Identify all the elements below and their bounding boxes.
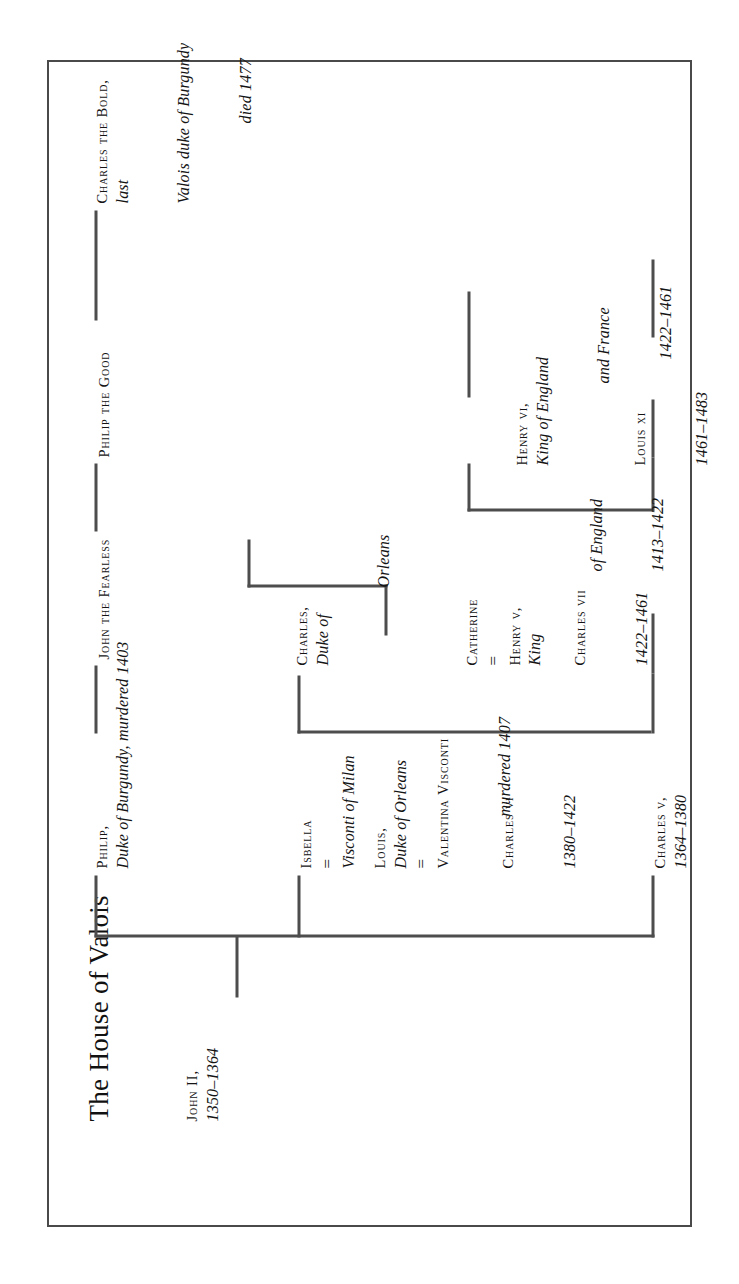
node-charles-the-bold-detail2: Valois duke of Burgundy <box>174 42 191 203</box>
connector-gen2-spine <box>94 934 654 937</box>
node-john-ii-name: John II, <box>183 1070 199 1121</box>
node-john-ii-dates: 1350–1364 <box>203 1047 220 1121</box>
connector-to-isbella <box>297 875 300 937</box>
connector-to-charles-orleans <box>247 539 250 587</box>
connector-philip-good-to-charles-bold <box>94 210 97 320</box>
node-henry-v-name: Henry v, <box>506 606 522 665</box>
node-louis-orleans-detail: Duke of Orleans <box>391 759 408 868</box>
node-charles-v-dates: 1364–1380 <box>671 794 688 868</box>
node-charles-the-bold-detail: last <box>113 179 130 203</box>
node-charles-vii-dates: 1422–1461 <box>632 591 649 665</box>
node-philip-the-good: Philip the Good <box>73 351 114 457</box>
connector-to-charles-v <box>651 875 654 937</box>
node-charles-the-bold-detail3: died 1477 <box>236 58 253 123</box>
node-charles-the-bold: Charles the Bold, last Valois duke of Bu… <box>71 0 255 203</box>
node-catherine-name: Catherine <box>463 598 479 665</box>
node-charles-vii-name: Charles vii <box>571 589 587 665</box>
node-henry-vi-detail: King of England <box>533 356 550 465</box>
node-henry-v-detail: King <box>525 633 542 665</box>
node-charles-orleans-detail: Duke of <box>313 613 330 665</box>
connector-catherine-to-henry-vi <box>467 291 470 397</box>
node-charles-orleans: Charles, Duke of Orleans <box>271 425 394 665</box>
node-isbella-name: Isbella <box>297 819 313 868</box>
rotated-chart-container: The House of Valois John II, 1350–1364 P… <box>49 62 690 1225</box>
node-philip-burgundy-name: Philip, <box>93 824 109 868</box>
page-border: The House of Valois John II, 1350–1364 P… <box>47 60 692 1227</box>
connector-john-fearless-to-philip-good <box>94 463 97 531</box>
node-valentina-visconti: Valentina Visconti <box>434 738 450 869</box>
node-john-ii: John II, 1350–1364 <box>161 1047 222 1121</box>
node-louis-xi-name: Louis xi <box>631 411 647 465</box>
marriage-sign-catherine: = <box>483 655 502 665</box>
connector-charles-v-to-gen3 <box>651 673 654 733</box>
marriage-sign-louis: = <box>411 858 430 868</box>
marriage-sign-isbella: = <box>317 858 336 868</box>
node-henry-vi-name: Henry vi, <box>513 402 529 465</box>
node-louis-xi-dates: 1461–1483 <box>692 391 709 465</box>
node-charles-orleans-name: Charles, <box>293 606 309 665</box>
connector-isbella-to-louis <box>297 675 300 733</box>
node-philip-burgundy-detail: Duke of Burgundy, murdered 1403 <box>113 641 130 868</box>
node-charles-v-name: Charles v, <box>651 796 667 868</box>
node-louis-orleans-name: Louis, <box>371 827 387 868</box>
node-charles-vi-dates: 1380–1422 <box>560 794 577 868</box>
node-louis-xi: Louis xi 1461–1483 <box>609 165 711 465</box>
node-charles-the-bold-name: Charles the Bold, <box>93 79 109 203</box>
node-philip-the-good-name: Philip the Good <box>95 351 111 457</box>
node-john-the-fearless-name: John the Fearless <box>95 538 111 659</box>
node-charles-orleans-detail2: Orleans <box>374 534 391 587</box>
connector-philip-to-john-fearless <box>94 665 97 733</box>
connector-to-philip-burgundy <box>94 875 97 937</box>
connector-john-ii-stem <box>235 935 238 997</box>
page-title: The House of Valois <box>83 895 114 1121</box>
node-charles-vi-name: Charles vi <box>499 796 515 868</box>
node-john-the-fearless: John the Fearless <box>73 538 114 659</box>
family-tree-canvas: The House of Valois John II, 1350–1364 P… <box>49 62 690 1225</box>
